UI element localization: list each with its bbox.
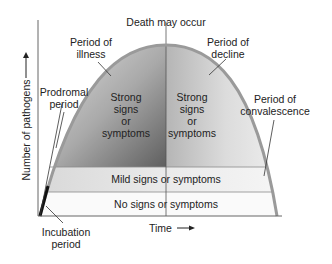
decline-label-1: Period of [207,36,249,48]
prodromal-label-1: Prodromal [40,86,88,98]
strong-left-2: signs [114,103,139,115]
convalescence-leader [264,120,274,176]
convalescence-label-1: Period of [254,93,296,105]
x-axis-arrow-icon [189,226,195,231]
strong-right-2: signs [180,103,205,115]
prodromal-label-2: period [49,98,78,110]
none-label: No signs or symptoms [114,198,218,210]
strong-right-4: symptoms [168,127,216,139]
incubation-label-1: Incubation [42,226,91,238]
disease-stages-diagram: Number of pathogens Time Death may occur… [0,0,332,264]
y-axis-arrow-icon [23,52,29,58]
mild-label: Mild signs or symptoms [111,173,221,185]
x-axis-label: Time [149,222,172,234]
strong-left-4: symptoms [102,127,150,139]
incubation-label-2: period [51,238,80,250]
illness-label-2: illness [76,48,105,60]
death-label: Death may occur [126,16,206,28]
strong-left-3: or [121,115,131,127]
strong-right-1: Strong [177,91,208,103]
illness-label-1: Period of [70,36,112,48]
strong-right-3: or [187,115,197,127]
curve-fill [38,40,288,216]
strong-left-1: Strong [111,91,142,103]
decline-label-2: decline [211,48,244,60]
y-axis-label: Number of pathogens [20,80,32,181]
y-axis-label-group: Number of pathogens [20,52,32,180]
convalescence-label-2: convalescence [240,105,310,117]
